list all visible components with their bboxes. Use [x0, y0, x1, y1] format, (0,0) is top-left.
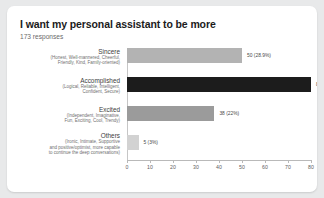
- bar-category-description: Friendly, Kind, Family-oriented): [8, 60, 120, 65]
- bar-row: Accomplished(Logical, Reliable, Intellig…: [7, 76, 317, 105]
- bar-sincere[interactable]: [127, 48, 242, 63]
- x-tick-label: 30: [193, 164, 199, 170]
- bar-category-description: Fun, Exciting, Cool, Trendy): [8, 118, 120, 123]
- x-tick-label: 50: [239, 164, 245, 170]
- x-tick: [242, 160, 243, 163]
- bar-category-description: to continue the deep conversations): [8, 150, 120, 155]
- bar-others[interactable]: [127, 135, 139, 150]
- bar-value-label: 80 (46.2%): [316, 82, 317, 87]
- survey-result-card: I want my personal assistant to be more …: [7, 6, 317, 192]
- x-tick: [196, 160, 197, 163]
- bar-row: Sincere(Honest, Well-mannered, Cheerful,…: [7, 47, 317, 76]
- bar-category-label: Sincere(Honest, Well-mannered, Cheerful,…: [8, 48, 120, 66]
- x-tick-label: 80: [308, 164, 314, 170]
- bar-value-label: 50 (28.9%): [247, 53, 271, 58]
- bar-accomplished[interactable]: [127, 77, 311, 92]
- bar-value-label: 38 (22%): [219, 111, 239, 116]
- x-tick: [127, 160, 128, 163]
- bar-excited[interactable]: [127, 106, 214, 121]
- page-title: I want my personal assistant to be more: [20, 18, 216, 30]
- x-tick-label: 60: [262, 164, 268, 170]
- bar-category-name: Others: [8, 132, 120, 139]
- x-tick: [311, 160, 312, 163]
- x-tick: [150, 160, 151, 163]
- bar-value-label: 5 (3%): [144, 140, 158, 145]
- response-count: 173 responses: [20, 33, 63, 40]
- bar-category-name: Accomplished: [8, 77, 120, 84]
- x-tick-label: 20: [170, 164, 176, 170]
- x-tick: [265, 160, 266, 163]
- bar-category-label: Excited(Independent, Imaginative,Fun, Ex…: [8, 106, 120, 124]
- x-tick-label: 10: [147, 164, 153, 170]
- bar-row: Others(Ironic, Intimate, Supportiveand p…: [7, 134, 317, 163]
- x-tick-label: 40: [216, 164, 222, 170]
- bar-row: Excited(Independent, Imaginative,Fun, Ex…: [7, 105, 317, 134]
- bar-category-name: Sincere: [8, 48, 120, 55]
- bar-category-name: Excited: [8, 106, 120, 113]
- bar-category-label: Accomplished(Logical, Reliable, Intellig…: [8, 77, 120, 95]
- x-tick: [219, 160, 220, 163]
- x-tick: [173, 160, 174, 163]
- bar-category-label: Others(Ironic, Intimate, Supportiveand p…: [8, 132, 120, 155]
- x-tick-label: 70: [285, 164, 291, 170]
- bar-category-description: Confident, Secure): [8, 89, 120, 94]
- x-tick-label: 0: [126, 164, 129, 170]
- bar-chart: Sincere(Honest, Well-mannered, Cheerful,…: [7, 46, 317, 192]
- x-tick: [288, 160, 289, 163]
